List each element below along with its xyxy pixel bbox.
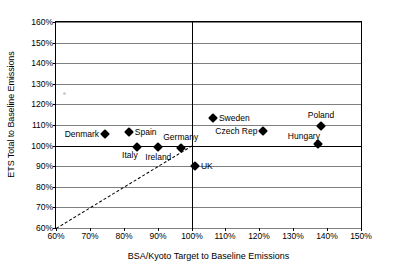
data-point-label: Hungary (288, 131, 320, 141)
gridline-horizontal (56, 228, 361, 229)
y-tick-label: 130% (31, 80, 53, 89)
y-tick-mark (53, 187, 56, 188)
y-tick-mark (53, 146, 56, 147)
y-tick-mark (53, 104, 56, 105)
y-tick-label: 120% (31, 100, 53, 109)
y-tick-mark (53, 63, 56, 64)
data-point-marker[interactable] (208, 113, 218, 123)
x-tick-label: 90% (149, 232, 166, 241)
scatter-chart: ETS Total to Baseline Emissions 60%70%80… (0, 0, 398, 269)
y-tick-label: 100% (31, 142, 53, 151)
x-tick-label: 130% (282, 232, 304, 241)
x-tick-label: 70% (81, 232, 98, 241)
data-point-label: Italy (122, 150, 138, 160)
data-point-label: Denmark (65, 129, 99, 139)
y-tick-label: 110% (32, 121, 53, 130)
gridline-horizontal (56, 63, 361, 64)
data-point-label: Poland (308, 110, 334, 120)
gridline-horizontal (56, 187, 361, 188)
x-tick-label: 150% (350, 232, 372, 241)
data-point-marker[interactable] (176, 144, 186, 154)
y-tick-label: 90% (36, 162, 53, 171)
x-tick-label: 100% (181, 232, 203, 241)
data-point-label: Czech Rep (215, 126, 257, 136)
data-point-marker[interactable] (124, 127, 134, 137)
y-tick-label: 70% (36, 203, 53, 212)
y-tick-label: 80% (36, 183, 53, 192)
x-tick-label: 80% (115, 232, 132, 241)
plot-inner: 60%70%80%90%100%110%120%130%140%150%160%… (56, 22, 361, 228)
data-point-marker[interactable] (100, 129, 110, 139)
gridline-horizontal (56, 22, 361, 23)
gridline-horizontal (56, 84, 361, 85)
data-point-label: Germany (163, 132, 198, 142)
y-tick-label: 140% (31, 59, 53, 68)
y-tick-label: 150% (31, 39, 53, 48)
data-point-label: Sweden (219, 113, 250, 123)
x-tick-label: 140% (316, 232, 338, 241)
data-point-marker[interactable] (153, 142, 163, 152)
data-point-label: Spain (135, 127, 157, 137)
gridline-horizontal (56, 207, 361, 208)
y-tick-mark (53, 125, 56, 126)
y-tick-mark (53, 84, 56, 85)
data-point-marker[interactable] (258, 126, 268, 136)
scan-artifact (63, 92, 66, 95)
y-tick-mark (53, 22, 56, 23)
x-axis-title: BSA/Kyoto Target to Baseline Emissions (55, 250, 362, 262)
y-tick-label: 160% (31, 18, 53, 27)
y-tick-mark (53, 166, 56, 167)
x-tick-label: 60% (47, 232, 64, 241)
data-point-label: UK (201, 161, 213, 171)
data-point-marker[interactable] (316, 121, 326, 131)
y-tick-mark (53, 43, 56, 44)
y-axis-title: ETS Total to Baseline Emissions (3, 0, 19, 229)
plot-area: 60%70%80%90%100%110%120%130%140%150%160%… (55, 21, 362, 229)
x-tick-label: 110% (214, 232, 235, 241)
gridline-horizontal (56, 43, 361, 44)
gridline-horizontal (56, 104, 361, 105)
y-tick-mark (53, 207, 56, 208)
baseline-gridline-vertical (192, 22, 193, 228)
x-tick-label: 120% (248, 232, 270, 241)
data-point-label: Ireland (145, 152, 171, 162)
